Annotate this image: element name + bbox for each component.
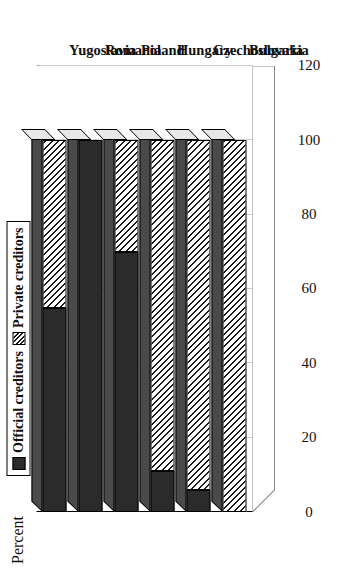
segment-official-czechoslovakia[interactable] [186, 490, 210, 512]
tick-label-60: 60 [300, 269, 317, 309]
segment-private-bulgaria[interactable] [222, 140, 246, 512]
chart-floor-3d [252, 66, 286, 512]
segment-official-romania[interactable] [78, 140, 102, 512]
tick-label-20: 20 [300, 418, 317, 458]
bar-hungary[interactable] [150, 66, 174, 512]
segment-private-poland[interactable] [114, 140, 138, 252]
legend-item-private: Private creditors [10, 228, 26, 345]
bar-top-face-hungary [139, 130, 150, 512]
tick-label-40: 40 [300, 343, 317, 383]
tick-label-80: 80 [300, 195, 317, 235]
official-swatch-icon [12, 457, 25, 470]
bar-top-face-romania [67, 130, 78, 512]
bar-end-cap-yugoslavia [20, 129, 55, 140]
private-hatch-swatch-icon [12, 332, 25, 345]
segment-official-yugoslavia[interactable] [42, 308, 66, 512]
tick-label-0: 0 [300, 492, 317, 532]
chart-figure: 020406080100120 BulgariaCzechoslovakiaHu… [0, 0, 351, 574]
segment-official-poland[interactable] [114, 252, 138, 512]
segment-private-yugoslavia[interactable] [42, 140, 66, 307]
value-axis-baseline [36, 511, 252, 512]
bar-top-face-poland [103, 130, 114, 512]
legend-item-official: Official creditors [10, 351, 26, 470]
chart-surface: 020406080100120 BulgariaCzechoslovakiaHu… [0, 0, 351, 574]
tick-label-100: 100 [300, 120, 317, 160]
plot-area [36, 66, 252, 512]
gridline-120 [36, 64, 252, 66]
bar-poland[interactable] [114, 66, 138, 512]
category-label-hungary: Hungary [177, 42, 233, 59]
legend-label-official: Official creditors [10, 351, 26, 453]
bar-yugoslavia[interactable] [42, 66, 66, 512]
segment-official-hungary[interactable] [150, 471, 174, 512]
bar-czechoslovakia[interactable] [186, 66, 210, 512]
legend-label-private: Private creditors [10, 228, 26, 328]
value-axis-title: Percent [8, 516, 26, 564]
chart-legend: Official creditors Private creditors [6, 221, 30, 476]
bar-top-face-czechoslovakia [175, 130, 186, 512]
category-label-yugoslavia: Yugoslavia [69, 42, 136, 59]
bar-top-face-yugoslavia [31, 130, 42, 512]
segment-private-hungary[interactable] [150, 140, 174, 471]
bar-top-face-bulgaria [211, 130, 222, 512]
segment-private-czechoslovakia[interactable] [186, 140, 210, 489]
bar-romania[interactable] [78, 66, 102, 512]
bar-bulgaria[interactable] [222, 66, 246, 512]
